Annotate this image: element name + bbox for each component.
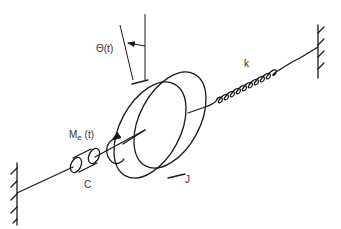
torsional-system-diagram: Θ(t) Me (t) C J k [0, 0, 341, 229]
rotated-reference-line [120, 25, 133, 80]
torsional-spring [208, 47, 318, 106]
inertia-label: J [185, 174, 190, 185]
shaft-left [17, 167, 73, 193]
damper-cylinder [68, 147, 102, 175]
spring-label: k [244, 58, 250, 69]
torque-label: Me (t) [69, 129, 94, 142]
damper-label: C [84, 179, 91, 190]
angle-arrow [128, 43, 145, 46]
inertia-disk [99, 60, 221, 190]
left-wall [11, 163, 17, 225]
angle-label: Θ(t) [96, 43, 113, 54]
right-wall [318, 25, 324, 78]
